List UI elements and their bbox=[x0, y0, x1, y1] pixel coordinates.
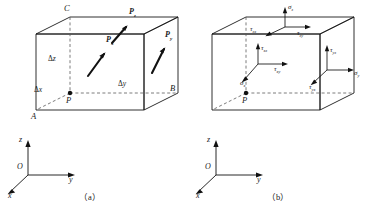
traction-py-label: Py bbox=[165, 31, 172, 42]
axis-x-line bbox=[198, 175, 216, 192]
cube-right-face bbox=[320, 17, 354, 110]
axis-x-label: x bbox=[196, 192, 200, 200]
point-p-label: P bbox=[242, 96, 247, 105]
delta-y-label: Δy bbox=[118, 80, 126, 88]
cube-top-face bbox=[212, 17, 354, 34]
tau-zy-head bbox=[305, 25, 311, 29]
axis-origin-label: O bbox=[205, 163, 211, 171]
tau-yz-head bbox=[325, 45, 329, 51]
axis-z-label: z bbox=[207, 136, 210, 144]
tau-yx-label: τyx bbox=[309, 84, 315, 93]
axis-y-label: y bbox=[257, 176, 261, 184]
delta-z-label: Δz bbox=[48, 55, 56, 63]
cube-hidden-edge-diagonal bbox=[212, 93, 246, 110]
caption-a: （a） bbox=[79, 190, 101, 202]
tau-zx-label: τzx bbox=[250, 26, 256, 35]
point-p-label: P bbox=[66, 96, 71, 105]
axis-z-label: z bbox=[19, 136, 22, 144]
traction-py-head bbox=[160, 47, 166, 53]
vertex-a-label: A bbox=[31, 112, 36, 121]
panel-b-graphics bbox=[188, 0, 376, 207]
traction-pz-label: Pz bbox=[129, 8, 136, 19]
delta-x-label: Δx bbox=[34, 86, 42, 94]
axis-x-label: x bbox=[8, 192, 12, 200]
cube-right-face bbox=[144, 17, 178, 110]
axis-origin-label: O bbox=[17, 163, 23, 171]
cube-hidden-edge-diagonal bbox=[36, 93, 70, 110]
tau-xz-label: τxz bbox=[261, 45, 267, 54]
stress-element-figure: C A B P Δz Δx Δy Pz Px Py z y x O （a） bbox=[0, 0, 376, 207]
traction-px-label: Px bbox=[106, 36, 113, 47]
vertex-b-label: B bbox=[170, 84, 175, 93]
cube-top-face bbox=[36, 17, 178, 34]
tau-zy-label: τzy bbox=[297, 30, 303, 39]
panel-b: P σz τzx τzy τxz τxy σx τyz σy τyx bbox=[188, 0, 376, 207]
axis-y-label: y bbox=[69, 176, 73, 184]
caption-b: （b） bbox=[267, 190, 289, 202]
panel-a: C A B P Δz Δx Δy Pz Px Py z y x O （a） bbox=[0, 0, 188, 207]
tau-xy-head bbox=[282, 62, 288, 66]
sigma-x-label: σx bbox=[240, 80, 245, 89]
axis-z-head bbox=[213, 140, 218, 147]
tau-xy-label: τxy bbox=[274, 66, 280, 75]
tau-xz-head bbox=[256, 43, 260, 49]
axis-z-head bbox=[25, 140, 30, 147]
sigma-z-head bbox=[283, 7, 287, 13]
panel-a-graphics bbox=[0, 0, 188, 207]
axis-x-line bbox=[10, 175, 28, 192]
sigma-z-label: σz bbox=[288, 4, 293, 13]
vertex-c-label: C bbox=[64, 4, 70, 13]
sigma-y-label: σy bbox=[354, 70, 359, 79]
tau-yz-label: τyz bbox=[330, 47, 336, 56]
